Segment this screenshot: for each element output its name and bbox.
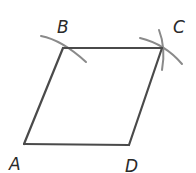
rhombus-diagram: B C A D bbox=[0, 0, 196, 173]
edge-cd bbox=[129, 48, 162, 145]
vertex-label-b: B bbox=[57, 17, 69, 37]
vertex-label-a: A bbox=[8, 154, 21, 173]
edge-da bbox=[24, 144, 129, 145]
vertex-label-d: D bbox=[125, 156, 138, 173]
edge-ab bbox=[24, 48, 63, 144]
vertex-label-c: C bbox=[173, 17, 185, 37]
